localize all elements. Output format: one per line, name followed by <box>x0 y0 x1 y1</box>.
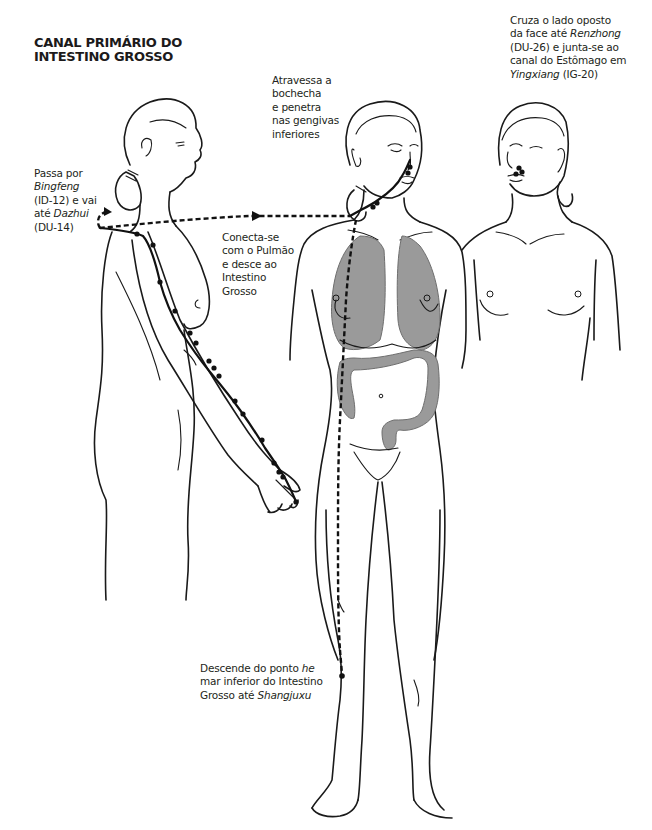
lung-left <box>397 236 440 350</box>
side-figure <box>94 99 300 600</box>
lung-right <box>332 236 386 350</box>
label-shangjuxu: Descende do ponto he mar inferior do Int… <box>200 662 323 702</box>
title-line-2: INTESTINO GROSSO <box>34 50 182 64</box>
diagram-title: CANAL PRIMÁRIO DO INTESTINO GROSSO <box>34 36 182 64</box>
dazhui-connector <box>98 207 350 228</box>
large-intestine <box>337 350 439 450</box>
label-renzhong: Cruza o lado oposto da face até Renzhong… <box>510 14 626 81</box>
channel-diagram: CANAL PRIMÁRIO DO INTESTINO GROSSO Passa… <box>0 0 652 830</box>
label-bingfeng: Passa por Bingfeng (ID-12) e vai até Daz… <box>34 167 97 234</box>
face-figure <box>462 103 620 380</box>
label-pulmao: Conecta-se com o Pulmão e desce ao Intes… <box>222 231 294 298</box>
label-bochecha: Atravessa a bochecha e penetra nas gengi… <box>272 74 339 141</box>
front-figure <box>290 102 466 818</box>
title-line-1: CANAL PRIMÁRIO DO <box>34 36 182 50</box>
